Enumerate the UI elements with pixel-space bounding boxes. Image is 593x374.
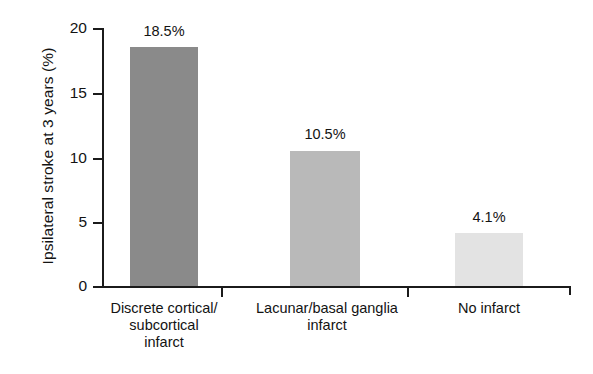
y-tick-label-15: 15 [41,84,87,102]
bar-value-label-1: 10.5% [275,126,375,142]
category-separator-tick-1 [221,287,223,297]
y-axis-line [102,28,104,288]
bar-discrete-cortical-subcortical-infarct [130,47,198,286]
y-tick-mark-0 [93,286,102,288]
bar-value-label-0: 18.5% [114,23,214,39]
x-category-label-0: Discrete cortical/ subcortical infarct [84,300,244,351]
x-axis-end-cap [569,286,571,295]
x-category-label-0-line-1: subcortical [84,317,244,334]
bar-lacunar-basal-ganglia-infarct [290,151,360,286]
x-category-label-2: No infarct [419,300,559,317]
bar-value-label-2: 4.1% [439,209,539,225]
x-category-label-1-line-0: Lacunar/basal ganglia [242,300,412,317]
y-tick-label-5: 5 [41,213,87,231]
x-axis-line [102,286,571,288]
y-tick-label-20: 20 [41,19,87,37]
x-category-label-0-line-0: Discrete cortical/ [84,300,244,317]
x-category-label-1: Lacunar/basal ganglia infarct [242,300,412,334]
x-category-label-1-line-1: infarct [242,317,412,334]
bar-chart: Ipsilateral stroke at 3 years (%) 20 15 … [0,0,593,374]
y-tick-mark-20 [93,28,102,30]
y-tick-label-10: 10 [41,149,87,167]
x-category-label-2-line-0: No infarct [419,300,559,317]
bar-no-infarct [455,233,523,286]
category-separator-tick-2 [407,287,409,297]
y-tick-label-0: 0 [41,277,87,295]
y-tick-mark-5 [93,222,102,224]
y-tick-mark-10 [93,158,102,160]
x-category-label-0-line-2: infarct [84,334,244,351]
y-tick-mark-15 [93,93,102,95]
